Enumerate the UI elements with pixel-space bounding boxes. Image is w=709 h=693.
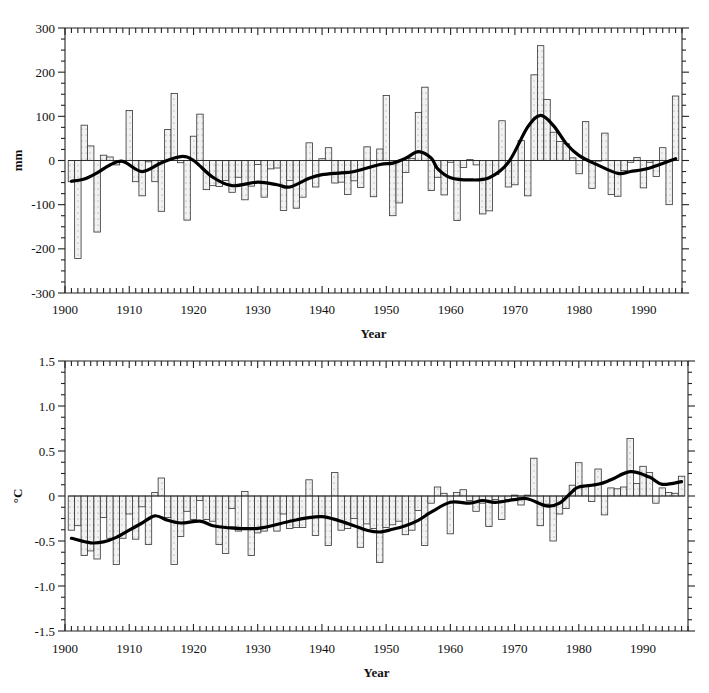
x-tick-label: 1940 bbox=[309, 641, 335, 656]
bar bbox=[525, 161, 531, 196]
bar bbox=[345, 161, 351, 195]
bar bbox=[672, 96, 678, 160]
bar bbox=[627, 438, 633, 496]
bar bbox=[293, 496, 299, 528]
x-tick-label: 1980 bbox=[566, 641, 592, 656]
bar bbox=[280, 496, 286, 514]
bar bbox=[499, 121, 505, 161]
bar bbox=[94, 496, 100, 559]
bar bbox=[537, 496, 543, 526]
bar bbox=[299, 496, 305, 528]
bar bbox=[235, 496, 241, 531]
bar bbox=[351, 496, 357, 519]
y-axis-title: mm bbox=[10, 150, 25, 172]
bar bbox=[653, 496, 659, 503]
bar bbox=[666, 161, 672, 205]
x-tick-label: 1980 bbox=[566, 302, 592, 317]
bar bbox=[171, 93, 177, 160]
x-tick-label: 1990 bbox=[630, 641, 656, 656]
bar bbox=[421, 496, 427, 546]
bar bbox=[466, 496, 472, 501]
bar bbox=[486, 161, 492, 211]
bar bbox=[287, 496, 293, 528]
bar bbox=[454, 492, 460, 496]
bar bbox=[396, 161, 402, 203]
bar bbox=[678, 476, 684, 496]
bar-series bbox=[68, 46, 679, 259]
bar bbox=[634, 157, 640, 160]
bar bbox=[499, 496, 505, 519]
x-tick-label: 1950 bbox=[373, 302, 399, 317]
y-axis-title: °C bbox=[10, 489, 25, 504]
bar bbox=[415, 496, 421, 510]
bar bbox=[659, 488, 665, 496]
bar bbox=[402, 496, 408, 535]
x-axis-title: Year bbox=[361, 326, 387, 341]
bar bbox=[87, 146, 93, 161]
bar bbox=[383, 96, 389, 161]
bar bbox=[473, 161, 479, 165]
bar bbox=[615, 161, 621, 197]
bar bbox=[107, 496, 113, 538]
bar bbox=[306, 480, 312, 496]
bar bbox=[582, 122, 588, 161]
bar bbox=[588, 496, 594, 501]
bar bbox=[242, 161, 248, 200]
bar bbox=[441, 161, 447, 195]
x-tick-label: 1910 bbox=[116, 302, 142, 317]
bar bbox=[126, 111, 132, 161]
bar bbox=[377, 149, 383, 160]
bar bbox=[383, 496, 389, 528]
bar bbox=[364, 496, 370, 524]
x-tick-label: 1930 bbox=[245, 641, 271, 656]
bar bbox=[338, 496, 344, 530]
bar bbox=[370, 496, 376, 528]
bar bbox=[158, 161, 164, 212]
bar bbox=[332, 473, 338, 496]
bar bbox=[602, 133, 608, 160]
bar bbox=[75, 161, 81, 259]
bar bbox=[460, 490, 466, 496]
bar bbox=[357, 161, 363, 188]
bar bbox=[242, 492, 248, 497]
bar bbox=[267, 496, 273, 527]
bar bbox=[165, 130, 171, 161]
bar bbox=[229, 161, 235, 193]
bar bbox=[171, 496, 177, 564]
x-tick-label: 1930 bbox=[245, 302, 271, 317]
bar bbox=[422, 87, 428, 160]
x-axis-title: Year bbox=[364, 665, 390, 680]
bar bbox=[203, 496, 209, 519]
bar bbox=[190, 136, 196, 160]
bar bbox=[107, 157, 113, 161]
bar bbox=[601, 496, 607, 515]
y-tick-label: -300 bbox=[31, 286, 55, 301]
x-tick-label: 1900 bbox=[52, 641, 78, 656]
bar bbox=[100, 155, 106, 160]
figure-canvas: 3002001000-100-200-300190019101920193019… bbox=[0, 0, 709, 693]
bar bbox=[660, 148, 666, 161]
bar bbox=[653, 161, 659, 177]
x-tick-label: 1910 bbox=[116, 641, 142, 656]
y-tick-label: 1.0 bbox=[39, 399, 55, 414]
x-tick-label: 1920 bbox=[180, 641, 206, 656]
bar bbox=[139, 496, 145, 507]
bar bbox=[267, 161, 273, 169]
bar bbox=[68, 161, 74, 182]
bar bbox=[190, 496, 196, 519]
y-tick-label: 300 bbox=[36, 21, 56, 36]
bar bbox=[640, 466, 646, 496]
y-tick-label: 1.5 bbox=[39, 354, 55, 369]
bar bbox=[550, 496, 556, 541]
bar bbox=[666, 492, 672, 496]
bar bbox=[75, 496, 81, 526]
bar bbox=[390, 161, 396, 216]
bar bbox=[210, 161, 216, 186]
bar bbox=[229, 496, 235, 509]
bar bbox=[274, 161, 280, 169]
bar bbox=[81, 125, 87, 160]
bar bbox=[100, 496, 106, 518]
bar bbox=[222, 496, 228, 554]
bar bbox=[139, 161, 145, 196]
bar bbox=[152, 492, 158, 496]
